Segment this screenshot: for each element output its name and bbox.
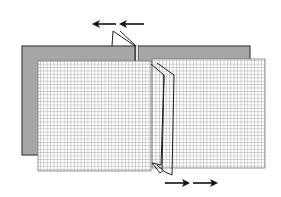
left-grid-panel: [38, 61, 151, 171]
right-grid-panel: [152, 59, 265, 168]
grid-panels: [38, 59, 265, 171]
layered-panels-diagram: [0, 0, 281, 197]
